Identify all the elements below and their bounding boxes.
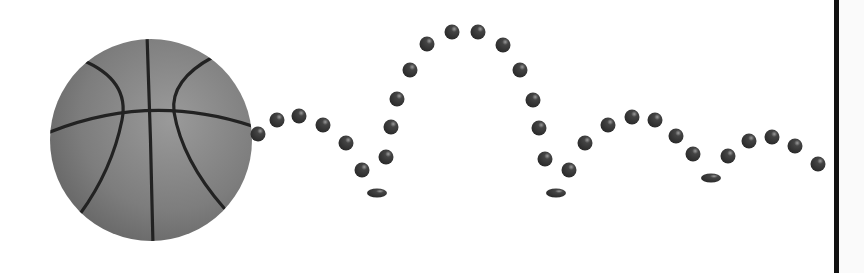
trail-dot xyxy=(811,157,826,172)
vertical-divider-line xyxy=(834,0,839,273)
trail-dot xyxy=(471,25,486,40)
trail-dot xyxy=(788,139,803,154)
trail-dot xyxy=(765,130,780,145)
trail-dot xyxy=(526,93,541,108)
squashed-dot xyxy=(701,174,721,183)
squashed-dot xyxy=(546,189,566,198)
trail-dot xyxy=(669,129,684,144)
bounce-illustration xyxy=(0,0,864,273)
trail-dot xyxy=(578,136,593,151)
trail-dot xyxy=(384,120,399,135)
squashed-dot xyxy=(367,189,387,198)
trail-dot xyxy=(562,163,577,178)
trail-dot xyxy=(496,38,511,53)
trail-dot xyxy=(270,113,285,128)
trail-dot xyxy=(648,113,663,128)
trail-dot xyxy=(742,134,757,149)
trail-dot xyxy=(513,63,528,78)
bounce-contact-marks xyxy=(367,174,721,198)
trail-dot xyxy=(625,110,640,125)
basketball xyxy=(50,35,252,246)
trail-dot xyxy=(532,121,547,136)
trail-dot xyxy=(390,92,405,107)
bounce-trail-dots xyxy=(251,25,826,178)
trail-dot xyxy=(379,150,394,165)
trail-dot xyxy=(420,37,435,52)
trail-dot xyxy=(721,149,736,164)
trail-dot xyxy=(316,118,331,133)
right-margin-strip xyxy=(839,0,864,273)
trail-dot xyxy=(355,163,370,178)
trail-dot xyxy=(403,63,418,78)
trail-dot xyxy=(251,127,266,142)
trail-dot xyxy=(601,118,616,133)
trail-dot xyxy=(339,136,354,151)
trail-dot xyxy=(445,25,460,40)
trail-dot xyxy=(292,109,307,124)
trail-dot xyxy=(686,147,701,162)
trail-dot xyxy=(538,152,553,167)
